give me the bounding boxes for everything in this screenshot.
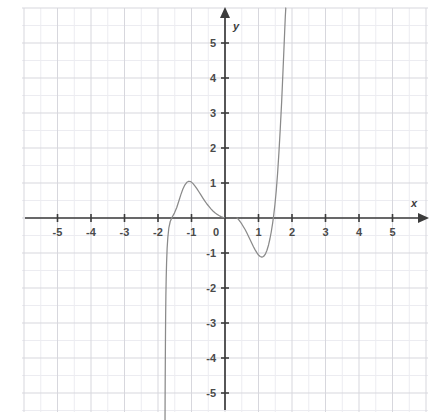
y-tick-label: 1 xyxy=(210,177,216,189)
y-tick-label: -2 xyxy=(206,282,216,294)
x-tick-label: 2 xyxy=(289,226,295,238)
x-tick-label: 3 xyxy=(322,226,328,238)
y-tick-label: 5 xyxy=(210,37,216,49)
axis-names: xy xyxy=(232,20,418,209)
x-axis-label: x xyxy=(410,197,418,209)
curve-right-branch xyxy=(237,8,286,257)
y-tick-label: -3 xyxy=(206,317,216,329)
x-tick-label: 4 xyxy=(356,226,363,238)
y-tick-label: 4 xyxy=(210,72,217,84)
x-tick-label: 1 xyxy=(255,226,261,238)
x-tick-label: -1 xyxy=(187,226,197,238)
y-axis-label: y xyxy=(232,20,240,32)
y-tick-label: 2 xyxy=(210,142,216,154)
x-tick-label: -3 xyxy=(120,226,130,238)
graph-figure: -5-4-3-2-1012345-5-4-3-2-112345 xy xyxy=(0,0,432,420)
y-tick-label: -4 xyxy=(206,352,217,364)
y-tick-label: 3 xyxy=(210,107,216,119)
x-tick-label: -4 xyxy=(86,226,97,238)
x-tick-label: -5 xyxy=(53,226,63,238)
x-tick-label: 5 xyxy=(389,226,395,238)
curve-left-branch xyxy=(165,181,224,420)
x-tick-label: -2 xyxy=(153,226,163,238)
y-tick-label: -1 xyxy=(206,247,216,259)
coordinate-plane: -5-4-3-2-1012345-5-4-3-2-112345 xy xyxy=(0,0,432,420)
x-tick-label: 0 xyxy=(213,226,219,238)
y-tick-label: -5 xyxy=(206,387,216,399)
axes xyxy=(25,7,429,410)
